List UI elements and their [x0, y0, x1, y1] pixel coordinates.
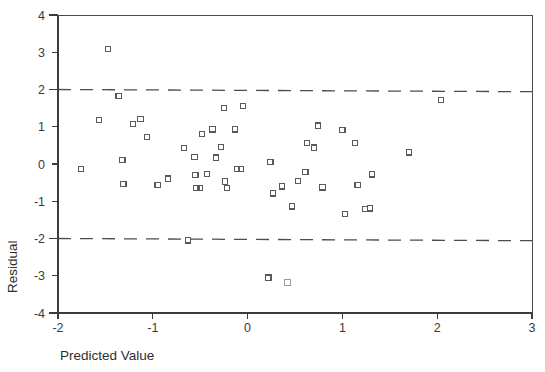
data-point-marker: [120, 157, 125, 162]
data-point-marker: [192, 154, 197, 159]
axis-titles: ResidualPredicted Value: [5, 240, 154, 363]
x-tick-label: 2: [434, 321, 441, 335]
data-point-marker: [138, 116, 143, 121]
x-tick-label: 0: [244, 321, 251, 335]
data-point-marker: [369, 172, 374, 177]
data-point-marker: [116, 93, 121, 98]
data-point-marker: [438, 97, 443, 102]
data-point-marker: [233, 127, 238, 132]
data-point-marker: [165, 176, 170, 181]
y-tick-label: 1: [38, 120, 45, 134]
data-point-marker: [214, 155, 219, 160]
residual-scatter-figure: -4-3-2-101234-2-10123 ResidualPredicted …: [0, 0, 545, 372]
data-point-marker: [311, 145, 316, 150]
data-point-marker: [106, 47, 111, 52]
data-point-marker: [279, 184, 284, 189]
y-tick-label: 0: [38, 158, 45, 172]
y-tick-label: 2: [38, 83, 45, 97]
data-point-marker: [204, 171, 209, 176]
x-tick-label: 1: [339, 321, 346, 335]
data-point-marker: [96, 117, 101, 122]
data-point-marker: [303, 169, 308, 174]
data-point-marker: [155, 182, 160, 187]
data-point-marker: [130, 121, 135, 126]
x-tick-label: 3: [529, 321, 536, 335]
plot-frame: [58, 15, 532, 313]
data-point-marker: [221, 105, 226, 110]
data-point-marker: [266, 275, 271, 280]
data-point-marker: [305, 140, 310, 145]
data-point-marker: [181, 145, 186, 150]
reference-line-lower-limit: [58, 239, 532, 241]
axis-ticks: [49, 15, 532, 319]
data-points: [78, 47, 443, 285]
data-point-marker: [285, 280, 290, 285]
data-point-marker: [218, 145, 223, 150]
data-point-marker: [406, 150, 411, 155]
x-tick-label: -1: [147, 321, 158, 335]
data-point-marker: [193, 172, 198, 177]
y-tick-label: -3: [34, 269, 45, 283]
x-axis-title: Predicted Value: [60, 348, 154, 363]
y-tick-label: -2: [34, 232, 45, 246]
x-tick-label: -2: [52, 321, 63, 335]
data-point-marker: [224, 185, 229, 190]
y-tick-label: -4: [34, 307, 45, 321]
data-point-marker: [200, 131, 205, 136]
data-point-marker: [185, 238, 190, 243]
data-point-marker: [271, 191, 276, 196]
data-point-marker: [290, 204, 295, 209]
data-point-marker: [240, 104, 245, 109]
tick-labels: -4-3-2-101234-2-10123: [34, 9, 536, 336]
data-point-marker: [355, 182, 360, 187]
data-point-marker: [343, 212, 348, 217]
data-point-marker: [121, 181, 126, 186]
y-tick-label: 3: [38, 46, 45, 60]
data-point-marker: [78, 166, 83, 171]
data-point-marker: [222, 179, 227, 184]
y-axis-title: Residual: [5, 240, 20, 293]
data-point-marker: [145, 134, 150, 139]
data-point-marker: [315, 123, 320, 128]
reference-lines: [58, 90, 532, 241]
data-point-marker: [320, 185, 325, 190]
data-point-marker: [340, 128, 345, 133]
y-tick-label: 4: [38, 9, 45, 23]
data-point-marker: [210, 127, 215, 132]
data-point-marker: [352, 141, 357, 146]
reference-line-upper-limit: [58, 90, 532, 92]
data-point-marker: [295, 178, 300, 183]
y-tick-label: -1: [34, 195, 45, 209]
data-point-marker: [268, 160, 273, 165]
scatter-plot-canvas: -4-3-2-101234-2-10123 ResidualPredicted …: [0, 0, 545, 372]
